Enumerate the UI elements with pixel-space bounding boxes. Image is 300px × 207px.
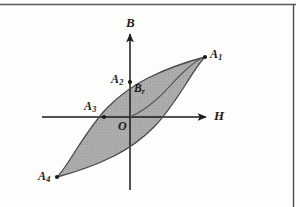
point-label-a1: A1 <box>210 48 222 60</box>
remanence-label-br: Br <box>134 83 145 95</box>
subscript-a3: 3 <box>92 105 96 114</box>
point-label-a2: A2 <box>111 73 123 85</box>
origin-label: O <box>118 120 127 132</box>
point-marker-a2 <box>128 80 132 84</box>
subscript-a2: 2 <box>119 78 123 87</box>
point-label-a3: A3 <box>84 100 96 112</box>
point-marker-a1 <box>203 55 207 59</box>
hysteresis-loop-figure: B H O A1 A2 A3 A4 Br <box>0 0 300 207</box>
point-label-a4: A4 <box>38 170 50 182</box>
point-marker-a3 <box>102 115 106 119</box>
point-marker-a4 <box>55 175 59 179</box>
subscript-br: r <box>142 87 145 96</box>
subscript-a1: 1 <box>218 53 222 62</box>
subscript-a4: 4 <box>46 175 50 184</box>
h-axis-label: H <box>214 109 224 122</box>
b-axis-label: B <box>126 16 135 29</box>
